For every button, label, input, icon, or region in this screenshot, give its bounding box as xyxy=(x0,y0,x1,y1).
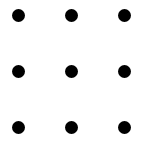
dot-r2-c3 xyxy=(118,65,131,78)
dot-r3-c2 xyxy=(65,121,78,134)
dot-r1-c3 xyxy=(118,9,131,22)
dot-r2-c2 xyxy=(65,65,78,78)
dot-grid xyxy=(0,0,145,144)
dot-r3-c3 xyxy=(118,121,131,134)
dot-r2-c1 xyxy=(12,65,25,78)
dot-r3-c1 xyxy=(12,121,25,134)
dot-r1-c2 xyxy=(65,9,78,22)
dot-r1-c1 xyxy=(12,9,25,22)
